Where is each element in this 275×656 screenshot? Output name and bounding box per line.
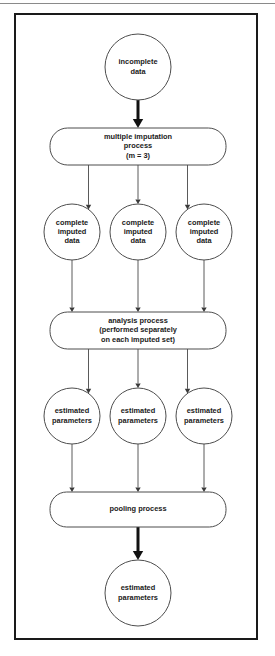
node-label-line: data	[130, 67, 146, 76]
node-label-line: data	[130, 236, 146, 245]
node-multiple-imputation-process-m-3-n2: multiple imputationprocess(m = 3)	[50, 128, 226, 165]
node-label-line: parameters	[184, 416, 224, 425]
edge-n9-to-n10	[201, 444, 206, 492]
edge-arrowhead	[201, 307, 206, 312]
node-label-line: complete	[122, 218, 154, 227]
edge-arrowhead	[135, 307, 140, 312]
node-label-line: (performed separately	[99, 325, 178, 334]
node-label-line: analysis process	[108, 316, 168, 325]
node-label-line: complete	[188, 218, 220, 227]
edge-arrowhead	[201, 487, 206, 492]
flowchart-canvas: incompletedatamultiple imputationprocess…	[14, 13, 258, 640]
edge-arrowhead	[135, 487, 140, 492]
edge-arrowhead	[69, 307, 74, 312]
node-label-line: data	[196, 236, 212, 245]
edge-n8-to-n10	[135, 444, 140, 492]
node-analysis-process-performed-separately-on-each-imputed-set-n6: analysis process(performed separatelyon …	[50, 312, 226, 349]
node-complete-imputed-data-n5: completeimputeddata	[176, 204, 232, 260]
node-estimated-parameters-n9: estimatedparameters	[176, 388, 232, 444]
edge-n6-to-n8	[135, 349, 140, 388]
node-estimated-parameters-n11: estimatedparameters	[105, 560, 171, 626]
node-label-line: estimated	[121, 406, 156, 415]
edge-arrowhead	[133, 119, 143, 128]
edge-n2-to-n3	[86, 165, 91, 209]
node-label-line: imputed	[58, 227, 87, 236]
edge-arrowhead	[135, 199, 140, 204]
edge-n5-to-n6	[201, 260, 206, 312]
figure-page: incompletedatamultiple imputationprocess…	[0, 0, 275, 656]
node-label-line: process	[124, 141, 152, 150]
node-label-line: data	[64, 236, 80, 245]
edge-arrowhead	[135, 383, 140, 388]
node-label-line: multiple imputation	[104, 132, 173, 141]
edge-n4-to-n6	[135, 260, 140, 312]
node-label-line: on each imputed set)	[101, 335, 175, 344]
edge-n2-to-n5	[185, 165, 190, 209]
edge-arrowhead	[133, 551, 143, 560]
node-incomplete-data-n1: incompletedata	[105, 34, 171, 100]
node-label-line: estimated	[55, 406, 90, 415]
node-complete-imputed-data-n3: completeimputeddata	[44, 204, 100, 260]
page-top-rule	[0, 3, 275, 4]
node-estimated-parameters-n7: estimatedparameters	[44, 388, 100, 444]
edge-n3-to-n6	[69, 260, 74, 312]
node-label-line: parameters	[118, 416, 158, 425]
node-complete-imputed-data-n4: completeimputeddata	[110, 204, 166, 260]
node-label-line: parameters	[118, 593, 158, 602]
edge-n2-to-n4	[135, 165, 140, 204]
edge-n6-to-n9	[185, 349, 190, 393]
node-label-line: estimated	[187, 406, 222, 415]
edge-n6-to-n7	[86, 349, 91, 393]
edge-n10-to-n11	[133, 527, 143, 560]
node-label-line: estimated	[121, 583, 156, 592]
node-label-line: imputed	[124, 227, 153, 236]
node-pooling-process-n10: pooling process	[50, 492, 226, 527]
node-estimated-parameters-n8: estimatedparameters	[110, 388, 166, 444]
edge-n1-to-n2	[133, 100, 143, 128]
node-label-line: parameters	[52, 416, 92, 425]
node-label-line: pooling process	[109, 504, 166, 513]
node-label-line: complete	[56, 218, 88, 227]
node-label-line: (m = 3)	[126, 151, 151, 160]
edge-arrowhead	[69, 487, 74, 492]
node-label-line: imputed	[190, 227, 219, 236]
edge-n7-to-n10	[69, 444, 74, 492]
node-label-line: incomplete	[118, 57, 157, 66]
